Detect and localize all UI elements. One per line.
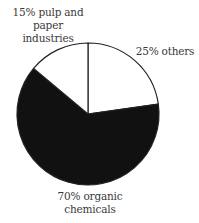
label-organic-chemicals: 70% organic chemicals xyxy=(52,190,128,216)
label-organic-line1: 70% organic xyxy=(52,190,128,203)
label-pulp-line3: industries xyxy=(4,32,92,45)
pie-chart: 15% pulp and paper industries 25% others… xyxy=(0,0,199,223)
label-others: 25% others xyxy=(130,45,199,58)
label-pulp-paper: 15% pulp and paper industries xyxy=(4,6,92,45)
label-pulp-line1: 15% pulp and xyxy=(4,6,92,19)
label-pulp-line2: paper xyxy=(4,19,92,32)
label-organic-line2: chemicals xyxy=(52,203,128,216)
label-others-text: 25% others xyxy=(130,45,199,58)
